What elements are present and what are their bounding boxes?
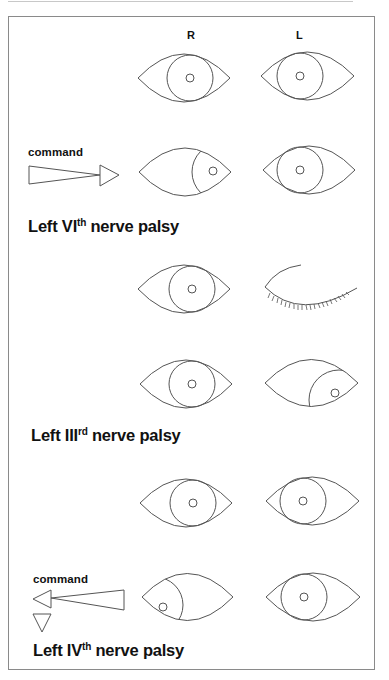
eye-left-row2-central: [263, 146, 355, 194]
eye-right-row5-primary: [140, 479, 232, 527]
eye-right-row6-left-down: [127, 574, 233, 634]
command-arrow-left-down: [33, 590, 124, 632]
eye-right-row1-primary: [138, 54, 230, 102]
command-arrow-right: [29, 165, 119, 186]
eye-right-row4-primary: [140, 360, 232, 408]
command-label-top: command: [28, 146, 83, 158]
heading-left-iii-nerve-palsy: Left IIIrd nerve palsy: [31, 426, 181, 445]
command-label-bottom: command: [33, 573, 88, 585]
heading-left-vi-nerve-palsy: Left VIth nerve palsy: [28, 217, 179, 236]
eye-right-row2-abducted: [139, 143, 250, 201]
heading-left-iv-nerve-palsy: Left IVth nerve palsy: [33, 641, 184, 660]
eye-left-row5-primary: [266, 477, 359, 525]
eye-left-row6-central: [266, 573, 360, 621]
eye-left-row3-ptosis-closed: [265, 265, 357, 310]
eye-right-row3-primary: [138, 265, 230, 313]
eye-left-row1-primary: [261, 52, 354, 100]
eye-left-row4-down-and-out: [265, 360, 369, 431]
